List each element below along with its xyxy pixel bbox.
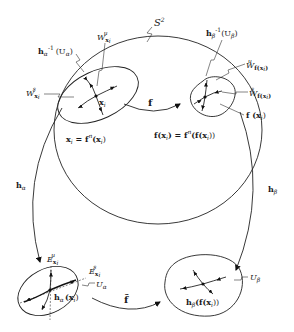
pointer-W-u-f-x-i [216, 64, 245, 80]
label-map-f-tilde: f̃ [124, 294, 129, 305]
label-map-h-alpha: hα [16, 180, 26, 191]
label-point-x-i: xi [99, 97, 106, 108]
pointer-U-alpha [82, 283, 95, 286]
point-h-alpha-x-i [48, 288, 51, 291]
point-h-beta-f-x-i [201, 282, 204, 285]
label-W-u-x-i: Wxiu [97, 29, 111, 44]
map-h-alpha-arrow [33, 108, 62, 262]
pointer-U-beta [234, 277, 248, 280]
stable-manifold-x-i [78, 86, 117, 108]
sphere-label-pointer [147, 27, 152, 42]
label-h-beta-inverse-U-beta: hβ-1(Uβ) [206, 26, 238, 40]
label-periodic-equation-left: xi = fn(xi) [66, 132, 106, 145]
arrow-u-2 [203, 106, 204, 109]
label-h-beta-f-x-i: hβ(f(xi)) [186, 297, 219, 309]
pointer-h-alpha-inverse [76, 54, 84, 72]
label-E-s-x-i: Exis [88, 263, 100, 278]
label-U-beta: Uβ [250, 273, 261, 284]
sphere-label: S2 [154, 16, 165, 28]
label-map-h-beta: hβ [268, 184, 278, 196]
commutative-diagram: S2 hα-1(Uα) Wxiu Wxis xi xi = fn(xi) f h… [0, 0, 294, 332]
label-W-s-f-x-i: Wf(xi)s [249, 85, 271, 100]
label-W-s-x-i: Wxis [26, 85, 40, 100]
label-W-u-f-x-i: Wf(xi)u [246, 57, 268, 72]
label-periodic-equation-right: f(xi) = fn(f(xi)) [154, 128, 215, 141]
point-x-i [94, 94, 97, 97]
map-h-beta-arrow [236, 112, 253, 270]
label-map-f: f [148, 97, 153, 108]
pointer-h-beta-inverse [206, 40, 222, 76]
neighborhood-f-x-i [190, 77, 235, 117]
label-E-u-x-i: Exiu [46, 251, 58, 266]
arrow-br-3 [183, 288, 186, 289]
label-h-alpha-inverse-U-alpha: hα-1(Uα) [38, 44, 73, 57]
label-point-f-x-i: f (xi) [246, 110, 266, 121]
label-h-alpha-x-i: hα(xi) [54, 292, 79, 303]
point-f-x-i [203, 95, 206, 98]
label-U-alpha: Uα [96, 280, 107, 290]
pointer-W-s-x-i [44, 94, 74, 97]
diagram-canvas: S2 hα-1(Uα) Wxiu Wxis xi xi = fn(xi) f h… [0, 0, 294, 332]
